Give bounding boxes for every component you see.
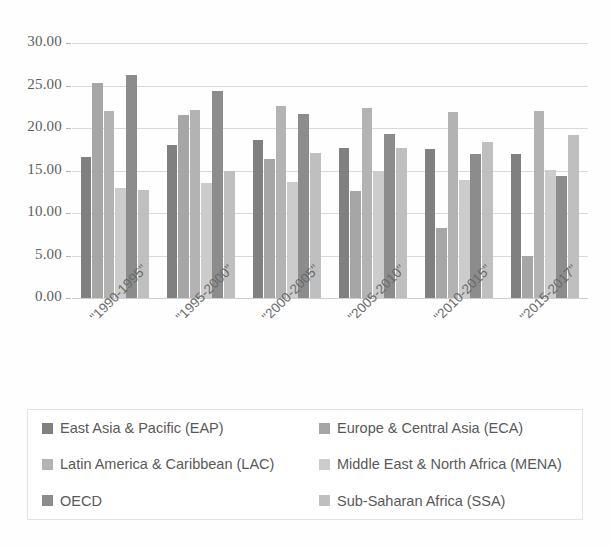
- bar: [104, 111, 115, 298]
- bar: [425, 149, 436, 298]
- legend-item-label: Latin America & Caribbean (LAC): [60, 456, 274, 472]
- bar: [522, 256, 533, 298]
- legend-swatch-ssa-icon: [319, 495, 330, 506]
- bar: [178, 115, 189, 298]
- legend-item-label: OECD: [60, 493, 102, 509]
- legend-swatch-eap-icon: [42, 423, 53, 434]
- bar: [81, 157, 92, 298]
- bar: [167, 145, 178, 298]
- legend-item[interactable]: Europe & Central Asia (ECA): [305, 420, 582, 436]
- legend-swatch-oecd-icon: [42, 495, 53, 506]
- legend-item[interactable]: Latin America & Caribbean (LAC): [28, 456, 305, 472]
- legend-item-label: Sub-Saharan Africa (SSA): [337, 493, 505, 509]
- bar: [350, 191, 361, 298]
- bar: [436, 228, 447, 298]
- legend-item-label: Middle East & North Africa (MENA): [337, 456, 562, 472]
- bar: [264, 159, 275, 298]
- bar: [339, 148, 350, 298]
- legend-item[interactable]: OECD: [28, 493, 305, 509]
- chart-legend: East Asia & Pacific (EAP)Europe & Centra…: [27, 409, 583, 520]
- bar: [511, 154, 522, 298]
- legend-swatch-lac-icon: [42, 459, 53, 470]
- bars-layer: [0, 0, 612, 400]
- legend-item-label: Europe & Central Asia (ECA): [337, 420, 523, 436]
- legend-item[interactable]: Middle East & North Africa (MENA): [305, 456, 582, 472]
- bar: [448, 112, 459, 298]
- bar: [92, 83, 103, 298]
- bar-chart: 0.005.0010.0015.0020.0025.0030.00 "1990-…: [0, 0, 612, 546]
- legend-swatch-mena-icon: [319, 459, 330, 470]
- legend-swatch-eca-icon: [319, 423, 330, 434]
- bar: [253, 140, 264, 298]
- bar: [276, 106, 287, 298]
- bar: [190, 110, 201, 298]
- legend-item-label: East Asia & Pacific (EAP): [60, 420, 224, 436]
- plot-area: 0.005.0010.0015.0020.0025.0030.00: [0, 0, 612, 400]
- legend-item[interactable]: Sub-Saharan Africa (SSA): [305, 493, 582, 509]
- bar: [362, 108, 373, 298]
- bar: [534, 111, 545, 298]
- legend-item[interactable]: East Asia & Pacific (EAP): [28, 420, 305, 436]
